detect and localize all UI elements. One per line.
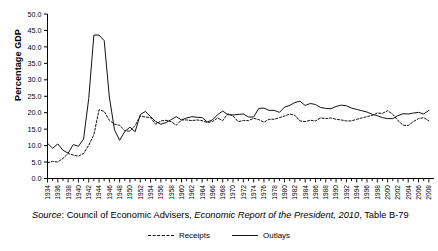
y-tick-group: 0.05.010.015.020.025.030.035.040.045.050… [28, 10, 48, 184]
x-tick-label: 1956 [157, 185, 164, 200]
x-tick-label: 2000 [384, 185, 391, 200]
x-tick-label: 1962 [188, 185, 195, 200]
x-tick-label: 1952 [137, 185, 144, 200]
series-line-receipts [48, 110, 429, 163]
y-tick-label: 10.0 [28, 141, 42, 150]
legend-label-outlays: Outlays [263, 231, 290, 240]
source-prefix: Source [32, 210, 61, 220]
source-title: Economic Report of the President, 2010 [194, 210, 359, 220]
y-tick-label: 0.0 [32, 174, 42, 183]
chart-legend: Receipts Outlays [0, 231, 438, 240]
x-tick-label: 1974 [250, 185, 257, 200]
y-tick-label: 25.0 [28, 92, 42, 101]
x-tick-label: 1970 [229, 185, 236, 200]
line-chart-svg: 0.05.010.015.020.025.030.035.040.045.050… [0, 0, 438, 200]
x-axis-group: 1934193619381940194219441946194819501952… [44, 179, 434, 200]
plot-area: 0.05.010.015.020.025.030.035.040.045.050… [0, 0, 438, 200]
series-line-outlays [48, 35, 429, 153]
y-tick-label: 45.0 [28, 26, 42, 35]
x-tick-label: 1990 [332, 185, 339, 200]
x-tick-label: 2006 [415, 185, 422, 200]
x-tick-label: 1992 [343, 185, 350, 200]
x-tick-label: 2008 [425, 185, 432, 200]
x-tick-label: 1936 [54, 185, 61, 200]
y-tick-label: 15.0 [28, 125, 42, 134]
x-tick-label: 1934 [44, 185, 51, 200]
legend-label-receipts: Receipts [179, 231, 210, 240]
x-tick-label: 1980 [281, 185, 288, 200]
x-tick-group: 1934193619381940194219441946194819501952… [44, 179, 432, 200]
x-tick-label: 1978 [271, 185, 278, 200]
y-tick-label: 20.0 [28, 108, 42, 117]
x-tick-label: 1966 [209, 185, 216, 200]
y-tick-label: 40.0 [28, 43, 42, 52]
x-tick-label: 1940 [75, 185, 82, 200]
x-tick-label: 1954 [147, 185, 154, 200]
y-tick-label: 5.0 [32, 158, 42, 167]
x-tick-label: 1948 [116, 185, 123, 200]
x-tick-label: 1968 [219, 185, 226, 200]
x-tick-label: 1964 [199, 185, 206, 200]
dashed-line-icon [148, 235, 174, 236]
x-tick-label: 1996 [363, 185, 370, 200]
x-tick-label: 1986 [312, 185, 319, 200]
y-tick-label: 50.0 [28, 10, 42, 19]
x-tick-label: 1944 [95, 185, 102, 200]
x-tick-label: 1998 [374, 185, 381, 200]
source-org: Council of Economic Advisers, [67, 210, 195, 220]
x-tick-label: 1942 [85, 185, 92, 200]
x-tick-label: 1946 [106, 185, 113, 200]
x-tick-label: 1994 [353, 185, 360, 200]
y-tick-label: 35.0 [28, 59, 42, 68]
source-note: Source: Council of Economic Advisers, Ec… [32, 210, 409, 220]
x-tick-label: 1958 [168, 185, 175, 200]
y-axis-group: 0.05.010.015.020.025.030.035.040.045.050… [28, 10, 48, 184]
x-tick-label: 1972 [240, 185, 247, 200]
x-tick-label: 1976 [260, 185, 267, 200]
source-suffix: , Table B-79 [359, 210, 408, 220]
solid-line-icon [232, 235, 258, 236]
x-tick-label: 1984 [302, 185, 309, 200]
x-tick-label: 1960 [178, 185, 185, 200]
figure-container: Percentage GDP 0.05.010.015.020.025.030.… [0, 0, 438, 251]
x-tick-label: 1982 [291, 185, 298, 200]
x-tick-label: 1950 [126, 185, 133, 200]
y-tick-label: 30.0 [28, 75, 42, 84]
x-tick-label: 2002 [394, 185, 401, 200]
x-tick-label: 2004 [405, 185, 412, 200]
x-tick-label: 1988 [322, 185, 329, 200]
legend-item-receipts: Receipts [148, 231, 210, 240]
legend-item-outlays: Outlays [232, 231, 290, 240]
x-tick-label: 1938 [65, 185, 72, 200]
